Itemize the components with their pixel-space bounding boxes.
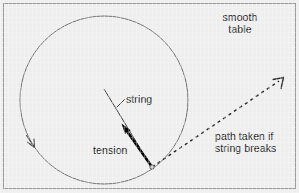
label-smooth-table: smooth table bbox=[206, 11, 274, 35]
physics-diagram-figure: smooth table string tension path taken i… bbox=[0, 0, 299, 193]
motion-direction-arrow-icon bbox=[27, 136, 35, 148]
particle-marker bbox=[150, 165, 154, 169]
dashed-escape-path bbox=[152, 81, 279, 167]
escape-path-arrowhead-icon bbox=[273, 78, 284, 89]
string-label-leader bbox=[117, 99, 126, 108]
label-tension: tension bbox=[93, 144, 128, 156]
label-path-taken-if-string-breaks: path taken if string breaks bbox=[215, 130, 276, 154]
label-string: string bbox=[126, 93, 152, 105]
